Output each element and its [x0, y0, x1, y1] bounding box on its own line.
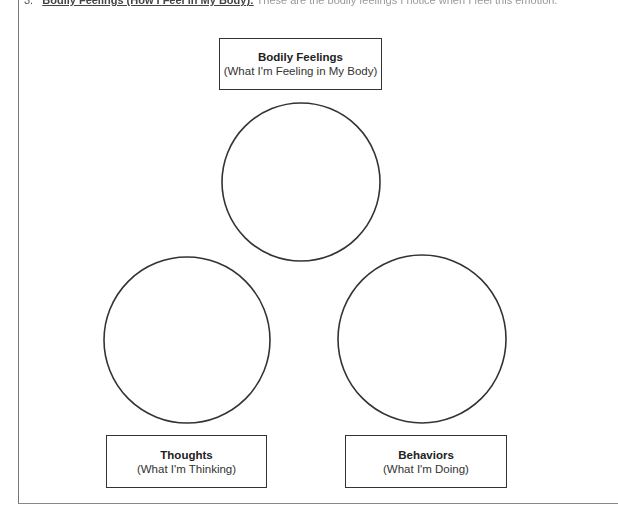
- behaviors-subtitle: (What I'm Doing): [383, 462, 469, 476]
- bodily-feelings-title: Bodily Feelings: [258, 50, 343, 64]
- behaviors-title: Behaviors: [398, 448, 454, 462]
- thoughts-title: Thoughts: [160, 448, 212, 462]
- bodily-feelings-subtitle: (What I'm Feeling in My Body): [224, 64, 378, 78]
- behaviors-circle[interactable]: [338, 255, 506, 423]
- thoughts-circle[interactable]: [104, 257, 270, 423]
- bodily-feelings-circle[interactable]: [222, 103, 380, 261]
- thoughts-subtitle: (What I'm Thinking): [137, 462, 236, 476]
- bodily-feelings-label-box: Bodily Feelings (What I'm Feeling in My …: [219, 38, 382, 90]
- thoughts-label-box: Thoughts (What I'm Thinking): [106, 435, 267, 488]
- behaviors-label-box: Behaviors (What I'm Doing): [345, 435, 507, 488]
